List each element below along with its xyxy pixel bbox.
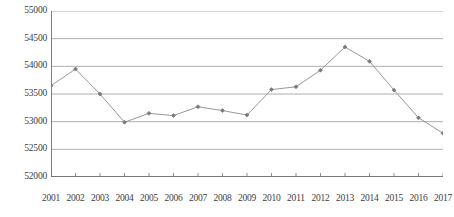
x-axis-tick-label: 2005 xyxy=(140,194,158,204)
x-axis-tick-labels: 年 20012002200320042005200620072008200920… xyxy=(0,0,454,217)
x-axis-tick-label: 2014 xyxy=(360,194,378,204)
x-axis-tick-label: 2012 xyxy=(311,194,329,204)
x-axis-tick-label: 2001 xyxy=(42,194,60,204)
line-chart: 55000545005400053500530005250052000 年 20… xyxy=(0,0,454,217)
x-axis-tick-label: 2017 xyxy=(434,194,452,204)
x-axis-tick-label: 2004 xyxy=(115,194,133,204)
x-axis-tick-label: 2009 xyxy=(238,194,256,204)
x-axis-tick-label: 2003 xyxy=(91,194,109,204)
x-axis-tick-label: 2016 xyxy=(409,194,427,204)
x-axis-tick-label: 2008 xyxy=(213,194,231,204)
x-axis-tick-label: 2010 xyxy=(262,194,280,204)
x-axis-tick-label: 2002 xyxy=(66,194,84,204)
x-axis-tick-label: 2015 xyxy=(385,194,403,204)
x-axis-tick-label: 2007 xyxy=(189,194,207,204)
x-axis-tick-label: 2013 xyxy=(336,194,354,204)
x-axis-tick-label: 2006 xyxy=(164,194,182,204)
x-axis-tick-label: 2011 xyxy=(287,194,305,204)
